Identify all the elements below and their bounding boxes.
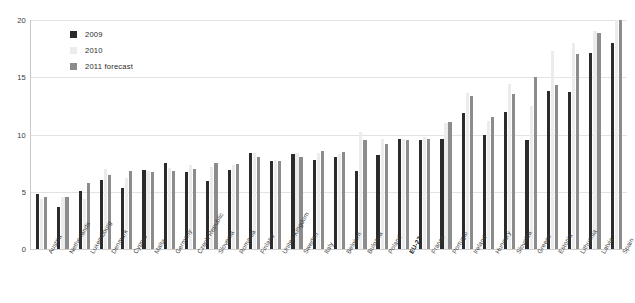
x-label-cell: Austria — [31, 251, 52, 303]
bar-group — [308, 20, 329, 249]
bar-group — [137, 20, 158, 249]
x-label-cell: Estonia — [542, 251, 563, 303]
bar-group — [435, 20, 456, 249]
bar-2010 — [508, 84, 511, 249]
x-label-cell: Finland — [244, 251, 265, 303]
bar-2010 — [444, 123, 447, 249]
bar-2009 — [568, 92, 571, 249]
bar-2010 — [168, 168, 171, 249]
x-label-cell: Malta — [137, 251, 158, 303]
legend-label: 2010 — [85, 46, 103, 55]
bar-2011-forecast — [257, 157, 260, 249]
bar-2011-forecast — [491, 117, 494, 249]
x-label-cell: United Kingdom — [265, 251, 286, 303]
bar-2010 — [423, 137, 426, 249]
bar-2011-forecast — [363, 140, 366, 249]
x-label-cell: EU-27 — [393, 251, 414, 303]
y-tick-label: 5 — [22, 187, 26, 196]
bar-group — [478, 20, 499, 249]
bar-group — [265, 20, 286, 249]
bar-2010 — [530, 106, 533, 249]
bar-2011-forecast — [427, 139, 430, 249]
bar-2010 — [402, 139, 405, 249]
x-label-cell: Belgium — [329, 251, 350, 303]
x-label-cell: Denmark — [95, 251, 116, 303]
y-tick-label: 10 — [17, 130, 26, 139]
bar-group — [159, 20, 180, 249]
bar-group — [329, 20, 350, 249]
bar-2011-forecast — [555, 85, 558, 249]
bar-group — [244, 20, 265, 249]
bar-2011-forecast — [406, 140, 409, 249]
bar-2009 — [547, 91, 550, 249]
bar-2011-forecast — [44, 197, 47, 249]
legend-item[interactable]: 2011 forecast — [70, 58, 133, 74]
legend: 200920102011 forecast — [70, 26, 133, 74]
x-label-cell: Romania — [223, 251, 244, 303]
bar-2011-forecast — [534, 77, 537, 249]
y-axis-ticks: 05101520 — [0, 20, 26, 249]
bar-2010 — [593, 31, 596, 249]
bar-group — [372, 20, 393, 249]
x-axis-labels: AustriaNetherlandsLuxembourgDenmarkCypru… — [31, 251, 627, 303]
bar-group — [223, 20, 244, 249]
bar-2011-forecast — [448, 122, 451, 249]
bar-group — [499, 20, 520, 249]
bar-group — [563, 20, 584, 249]
bar-2011-forecast — [129, 171, 132, 249]
x-label-cell: Lithuania — [563, 251, 584, 303]
x-label-cell: Spain — [606, 251, 627, 303]
bar-2009 — [440, 139, 443, 249]
bar-group — [520, 20, 541, 249]
bar-2011-forecast — [87, 183, 90, 249]
bar-2009 — [419, 140, 422, 249]
bar-2011-forecast — [172, 171, 175, 249]
bar-2011-forecast — [321, 151, 324, 249]
bar-group — [350, 20, 371, 249]
x-label-cell: Poland — [372, 251, 393, 303]
bar-group — [414, 20, 435, 249]
bar-2009 — [504, 112, 507, 249]
bar-group — [31, 20, 52, 249]
legend-item[interactable]: 2009 — [70, 26, 133, 42]
bar-group — [606, 20, 627, 249]
x-label-cell: Hungary — [478, 251, 499, 303]
legend-swatch-icon — [70, 63, 77, 70]
legend-label: 2009 — [85, 30, 103, 39]
bar-2011-forecast — [65, 197, 68, 249]
bar-group — [180, 20, 201, 249]
legend-swatch-icon — [70, 47, 77, 54]
bar-2010 — [125, 178, 128, 249]
x-label-cell: Italy — [308, 251, 329, 303]
y-tick-label: 0 — [22, 245, 26, 254]
bar-2011-forecast — [385, 144, 388, 249]
bar-2009 — [334, 157, 337, 249]
bar-2009 — [589, 53, 592, 249]
bar-2010 — [338, 154, 341, 249]
bar-2011-forecast — [299, 157, 302, 249]
bar-2010 — [61, 197, 64, 249]
bar-2010 — [551, 51, 554, 249]
legend-swatch-icon — [70, 31, 77, 38]
x-label-cell: Slovakia — [499, 251, 520, 303]
bar-2009 — [483, 135, 486, 250]
x-label-cell: Latvia — [584, 251, 605, 303]
bar-2011-forecast — [597, 33, 600, 249]
bar-2009 — [36, 194, 39, 249]
x-label-cell: Cyprus — [116, 251, 137, 303]
bar-2011-forecast — [278, 161, 281, 249]
x-label-cell: Sweden — [286, 251, 307, 303]
bar-group — [542, 20, 563, 249]
bar-2011-forecast — [236, 164, 239, 249]
bar-2009 — [164, 163, 167, 249]
x-label-cell: Netherlands — [52, 251, 73, 303]
bar-2011-forecast — [151, 172, 154, 249]
x-label-cell: Czech Republic — [180, 251, 201, 303]
x-label-cell: Portugal — [435, 251, 456, 303]
bar-2011-forecast — [512, 94, 515, 249]
legend-item[interactable]: 2010 — [70, 42, 133, 58]
bar-2010 — [40, 199, 43, 249]
bar-2010 — [466, 93, 469, 249]
bar-2011-forecast — [619, 20, 622, 249]
